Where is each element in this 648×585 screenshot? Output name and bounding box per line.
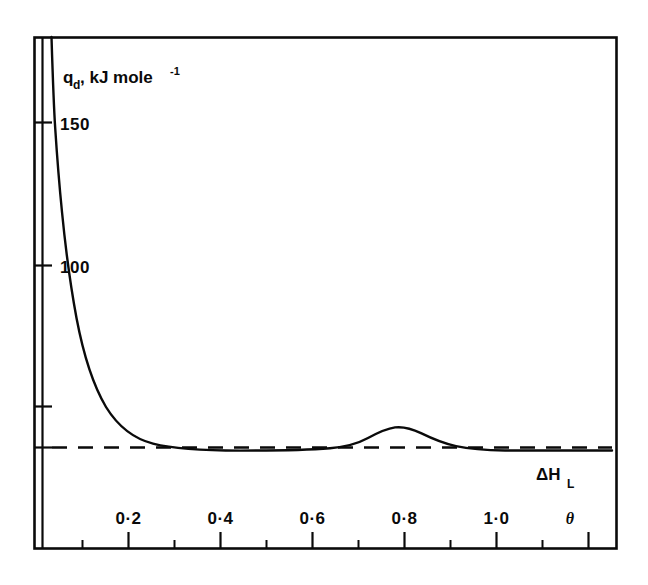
annotation-main: ΔH bbox=[536, 465, 561, 484]
x-tick-label-1-0: 1·0 bbox=[483, 509, 509, 528]
figure-container: 150 100 q d , kJ mole -1 0·2 0·4 0·6 0·8… bbox=[0, 0, 648, 585]
plot-frame bbox=[35, 38, 617, 549]
data-curve bbox=[52, 37, 613, 451]
annotation-delta-h-l: ΔH L bbox=[536, 465, 574, 491]
y-axis-title-main: q bbox=[63, 68, 73, 87]
y-axis-title-superscript: -1 bbox=[170, 65, 180, 77]
y-tick-label-100: 100 bbox=[60, 258, 90, 277]
y-axis-title-rest: , kJ mole bbox=[80, 68, 153, 87]
chart-svg: 150 100 q d , kJ mole -1 0·2 0·4 0·6 0·8… bbox=[0, 0, 648, 585]
x-tick-label-0-6: 0·6 bbox=[299, 509, 325, 528]
x-tick-label-0-4: 0·4 bbox=[207, 509, 233, 528]
x-axis-title-theta: θ bbox=[566, 510, 575, 527]
y-axis-title: q d , kJ mole -1 bbox=[63, 65, 180, 92]
x-tick-label-0-2: 0·2 bbox=[115, 509, 141, 528]
x-tick-label-0-8: 0·8 bbox=[391, 509, 417, 528]
y-tick-label-150: 150 bbox=[60, 115, 90, 134]
annotation-subscript: L bbox=[567, 477, 574, 491]
